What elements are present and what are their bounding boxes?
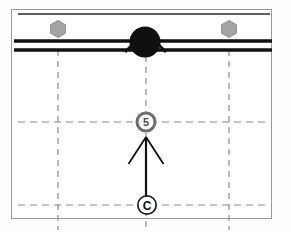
engineering-detail-diagram: 5 C [0,0,291,232]
callout-section-c[interactable]: C [138,196,156,214]
callout-detail-5-label: 5 [143,116,149,128]
diagram-canvas: 5 C [0,0,291,232]
callout-detail-5[interactable]: 5 [137,113,155,131]
connection-node [130,27,161,58]
hex-bolt-left-icon [51,21,66,38]
callout-section-c-label: C [143,199,152,213]
hex-bolt-right-icon [222,21,237,38]
